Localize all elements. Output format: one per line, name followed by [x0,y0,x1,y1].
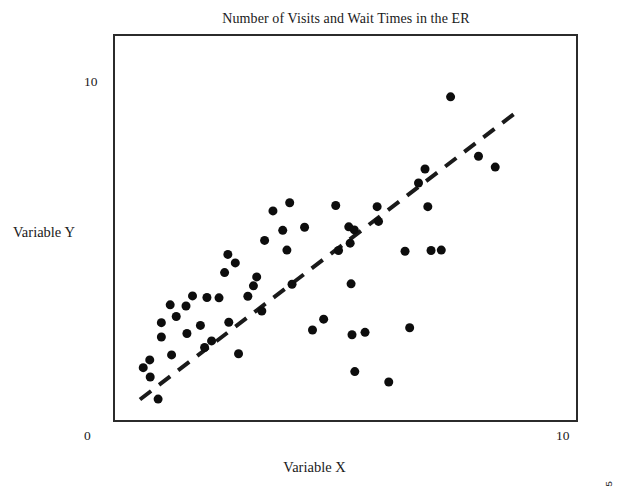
plot-area-frame [113,34,578,422]
y-axis-tick-10: 10 [84,74,98,90]
scatter-plot-figure: Number of Visits and Wait Times in the E… [0,0,629,487]
x-axis-label: Variable X [0,459,629,476]
y-axis-label: Variable Y [13,224,75,241]
x-axis-tick-0: 0 [84,428,91,444]
chart-title: Number of Visits and Wait Times in the E… [113,11,579,27]
x-axis-tick-10: 10 [556,428,570,444]
copyright-credit: © Cengage Learning 2015 [603,481,614,487]
